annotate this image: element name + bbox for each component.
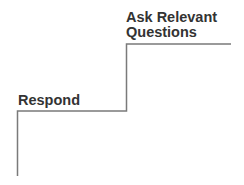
step-label-ask-relevant-questions: Ask Relevant Questions — [126, 10, 217, 40]
step-label-respond: Respond — [18, 93, 80, 108]
step-label-line-1: Ask Relevant — [126, 10, 217, 25]
stair-path — [18, 44, 232, 176]
step-label-line-2: Questions — [126, 25, 217, 40]
staircase-diagram: Respond Ask Relevant Questions — [0, 0, 244, 185]
